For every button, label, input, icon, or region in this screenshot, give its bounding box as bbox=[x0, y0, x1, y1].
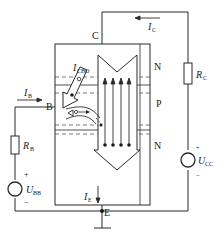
collector-wire bbox=[102, 12, 188, 63]
svg-text:C: C bbox=[152, 27, 156, 33]
rc-label: R C bbox=[195, 69, 207, 81]
svg-text:+: + bbox=[196, 145, 200, 151]
collector-voltage-source bbox=[181, 153, 195, 167]
svg-text:BB: BB bbox=[33, 190, 41, 196]
ic-arrow-head bbox=[135, 16, 140, 20]
transistor-circuit-diagram: C B E N P N I C I B I E I CBO R C R B U … bbox=[0, 0, 221, 241]
svg-text:R: R bbox=[22, 140, 29, 151]
svg-text:C: C bbox=[203, 75, 207, 81]
collector-label: C bbox=[92, 30, 99, 41]
ic-label: I C bbox=[147, 21, 156, 33]
svg-text:R: R bbox=[195, 69, 202, 80]
region-top-label: N bbox=[154, 61, 161, 72]
collector-resistor bbox=[184, 63, 192, 84]
ie-label: I E bbox=[83, 191, 92, 203]
region-bottom-label: N bbox=[154, 140, 161, 151]
ie-arrow-head bbox=[96, 198, 100, 203]
emitter-label: E bbox=[104, 207, 110, 218]
ib-label: I B bbox=[23, 87, 32, 99]
hole-symbol bbox=[77, 77, 81, 81]
icbo-label: I CBO bbox=[72, 62, 90, 74]
svg-text:−: − bbox=[24, 198, 29, 207]
electron-flow-arrow bbox=[94, 55, 140, 170]
svg-text:B: B bbox=[30, 146, 34, 152]
electron-symbol bbox=[70, 93, 74, 97]
base-resistor bbox=[11, 136, 19, 154]
svg-text:−: − bbox=[196, 172, 200, 180]
ucc-label: U CC + − bbox=[196, 145, 213, 180]
recombination-arrow bbox=[66, 107, 103, 127]
svg-text:+: + bbox=[24, 170, 29, 179]
svg-text:CBO: CBO bbox=[77, 68, 90, 74]
svg-text:B: B bbox=[28, 93, 32, 99]
base-voltage-source bbox=[8, 182, 22, 196]
ib-arrow-head bbox=[37, 98, 42, 102]
region-middle-label: P bbox=[156, 98, 162, 109]
svg-text:CC: CC bbox=[205, 161, 213, 167]
rb-label: R B bbox=[22, 140, 34, 152]
base-label: B bbox=[46, 101, 53, 112]
svg-text:E: E bbox=[88, 197, 92, 203]
ubb-label: U BB + − bbox=[24, 170, 41, 207]
